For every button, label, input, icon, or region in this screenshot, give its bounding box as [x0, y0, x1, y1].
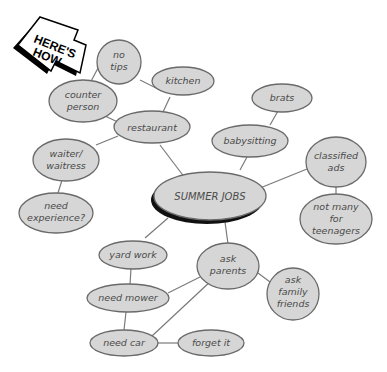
cluster-diagram: HERE'S HOW no tips kitchen counter perso…: [0, 0, 387, 372]
svg-text:babysitting: babysitting: [223, 135, 276, 146]
node-waiter-waitress: waiter/ waitress: [33, 139, 99, 181]
node-not-many-for-teenagers: not many for teenagers: [300, 194, 372, 244]
svg-text:tips: tips: [110, 61, 127, 72]
svg-text:waiter/: waiter/: [50, 148, 85, 159]
svg-text:need car: need car: [103, 337, 146, 348]
node-ask-parents: ask parents: [197, 243, 259, 289]
svg-text:ask: ask: [285, 274, 302, 285]
svg-text:no: no: [113, 49, 125, 60]
svg-text:need mower: need mower: [98, 292, 158, 303]
svg-text:waitress: waitress: [46, 160, 86, 171]
svg-text:brats: brats: [270, 92, 294, 103]
node-brats: brats: [252, 84, 312, 112]
node-restaurant: restaurant: [114, 111, 190, 143]
svg-text:person: person: [66, 101, 100, 112]
svg-text:yard work: yard work: [108, 249, 157, 260]
node-babysitting: babysitting: [212, 125, 288, 157]
node-ask-family-friends: ask family friends: [267, 268, 319, 320]
svg-text:forget it: forget it: [192, 337, 231, 348]
svg-text:family: family: [278, 286, 308, 297]
node-need-mower: need mower: [87, 284, 169, 312]
svg-text:need: need: [44, 200, 69, 211]
svg-text:not many: not many: [313, 201, 359, 212]
node-yard-work: yard work: [99, 241, 167, 269]
svg-text:counter: counter: [65, 89, 103, 100]
svg-text:friends: friends: [277, 298, 310, 309]
svg-text:for: for: [329, 213, 343, 224]
node-no-tips: no tips: [97, 40, 141, 84]
node-need-car: need car: [90, 330, 158, 356]
svg-text:experience?: experience?: [27, 212, 85, 223]
svg-text:SUMMER JOBS: SUMMER JOBS: [174, 191, 246, 202]
heres-how-arrow-badge: HERE'S HOW: [13, 17, 86, 76]
svg-text:ads: ads: [328, 162, 345, 173]
svg-text:ask: ask: [220, 253, 237, 264]
node-kitchen: kitchen: [152, 67, 214, 95]
node-forget-it: forget it: [178, 330, 244, 356]
node-need-experience: need experience?: [19, 193, 93, 233]
svg-text:parents: parents: [209, 265, 246, 276]
svg-text:restaurant: restaurant: [127, 122, 178, 133]
svg-text:kitchen: kitchen: [166, 75, 201, 86]
svg-text:classified: classified: [314, 150, 359, 161]
node-summer-jobs-center: SUMMER JOBS: [151, 172, 266, 224]
node-classified-ads: classified ads: [306, 137, 366, 187]
node-counter-person: counter person: [49, 80, 117, 122]
svg-text:teenagers: teenagers: [312, 225, 360, 236]
